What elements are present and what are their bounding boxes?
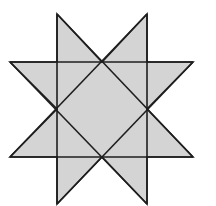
star-diagram [0,0,216,206]
star-figure [0,0,216,206]
